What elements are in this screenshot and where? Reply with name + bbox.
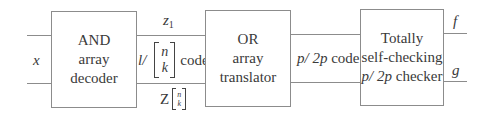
bus2-line-top bbox=[290, 34, 361, 35]
bus1-middle-label: l/ n k code bbox=[138, 43, 209, 77]
block-label-line: translator bbox=[220, 68, 277, 87]
output-label-f: f bbox=[453, 13, 457, 30]
bus1-line-top bbox=[136, 35, 206, 36]
block-label-line: p/ 2p checker bbox=[362, 67, 443, 86]
block-label-line: AND bbox=[70, 31, 117, 50]
self-checking-checker-block: Totally self-checking p/ 2p checker bbox=[360, 9, 444, 106]
bus1-line-bottom bbox=[136, 83, 206, 84]
binomial-n-k: n k bbox=[154, 42, 175, 78]
and-array-decoder-block: AND array decoder bbox=[51, 11, 137, 108]
input-line-top bbox=[27, 35, 52, 36]
bus1-top-label: z1 bbox=[163, 12, 174, 33]
output-line-f bbox=[443, 33, 467, 34]
output-label-g: g bbox=[452, 62, 460, 79]
block-label-line: Totally bbox=[362, 29, 443, 48]
block-label-line: OR bbox=[220, 30, 277, 49]
block-label-line: self-checking bbox=[362, 48, 443, 67]
input-label-x: x bbox=[33, 52, 40, 69]
right-bracket bbox=[170, 42, 175, 78]
bus1-bottom-label: Z n k bbox=[160, 88, 189, 110]
block-label-line: array bbox=[70, 50, 117, 69]
input-line-bottom bbox=[27, 83, 52, 84]
output-line-g bbox=[443, 81, 467, 82]
bus2-line-bottom bbox=[290, 82, 361, 83]
or-array-translator-block: OR array translator bbox=[205, 10, 291, 107]
binomial-n-k-small: n k bbox=[172, 88, 186, 110]
right-bracket bbox=[182, 88, 186, 110]
block-label-line: array bbox=[220, 49, 277, 68]
bus2-label: p/ 2p code bbox=[297, 50, 360, 67]
block-label-line: decoder bbox=[70, 69, 117, 88]
